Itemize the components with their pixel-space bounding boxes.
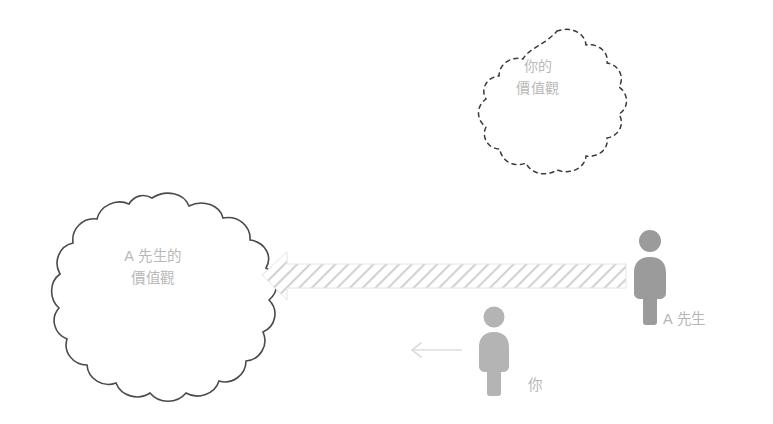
you-direction-arrow: [412, 343, 462, 357]
person-mr-a-body: [634, 257, 666, 325]
hatched-influence-arrow: [262, 252, 626, 300]
your-values-cloud-label: 你的 價值觀: [478, 56, 598, 99]
person-mr-a-label: A 先生: [663, 307, 706, 328]
mr-a-values-cloud: [52, 193, 277, 401]
your-values-cloud-outline: [479, 29, 627, 173]
diagram-graphics: [0, 0, 773, 424]
diagram-canvas: 你的 價值觀 A 先生的 價值觀 A 先生 你: [0, 0, 773, 424]
mr-a-values-cloud-label: A 先生的 價值觀: [83, 245, 223, 290]
person-you-body: [479, 332, 509, 396]
hatched-arrow-shape: [262, 252, 626, 300]
mr-a-values-cloud-outline: [52, 193, 277, 401]
person-you: [479, 307, 509, 397]
person-mr-a-head: [639, 230, 661, 252]
your-values-cloud: [479, 29, 627, 173]
person-you-head: [484, 307, 505, 328]
person-you-label: 你: [528, 373, 543, 394]
person-mr-a: [634, 230, 666, 325]
